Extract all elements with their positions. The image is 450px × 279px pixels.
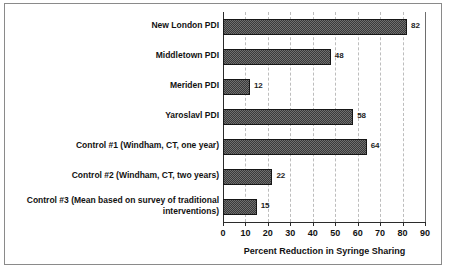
chart-figure: 82New London PDI48Middletown PDI12Meride… — [0, 0, 450, 279]
category-label: Yaroslavl PDI — [165, 110, 219, 121]
category-label: Control #2 (Windham, CT, two years) — [72, 170, 219, 181]
bar[interactable] — [223, 19, 407, 35]
bar[interactable] — [223, 199, 257, 215]
category-label: Control #3 (Mean based on survey of trad… — [27, 195, 219, 217]
bar-row: 22Control #2 (Windham, CT, two years) — [0, 162, 450, 192]
bar[interactable] — [223, 139, 367, 155]
bar-value-label: 15 — [261, 201, 270, 210]
bar-value-label: 82 — [411, 21, 420, 30]
x-tick-80 — [403, 222, 404, 226]
x-tick-0 — [223, 222, 224, 226]
x-tick-label-90: 90 — [410, 228, 440, 238]
x-tick-60 — [358, 222, 359, 226]
category-label: Middletown PDI — [156, 50, 219, 61]
x-tick-90 — [425, 222, 426, 226]
bar-row: 15Control #3 (Mean based on survey of tr… — [0, 192, 450, 222]
x-tick-50 — [335, 222, 336, 226]
bar[interactable] — [223, 109, 353, 125]
x-tick-20 — [268, 222, 269, 226]
bar-row: 64Control #1 (Windham, CT, one year) — [0, 132, 450, 162]
bar-value-label: 58 — [357, 111, 366, 120]
bar-value-label: 48 — [335, 51, 344, 60]
bar-value-label: 22 — [276, 171, 285, 180]
category-label: New London PDI — [151, 20, 219, 31]
bar-row: 82New London PDI — [0, 12, 450, 42]
bar-row: 48Middletown PDI — [0, 42, 450, 72]
bar-value-label: 64 — [371, 141, 380, 150]
bar-row: 58Yaroslavl PDI — [0, 102, 450, 132]
category-label: Control #1 (Windham, CT, one year) — [76, 140, 219, 151]
x-tick-10 — [245, 222, 246, 226]
x-tick-30 — [290, 222, 291, 226]
bar[interactable] — [223, 49, 331, 65]
bar[interactable] — [223, 169, 272, 185]
x-axis-line — [223, 222, 426, 223]
bar[interactable] — [223, 79, 250, 95]
x-axis-title: Percent Reduction in Syringe Sharing — [223, 246, 426, 256]
bar-value-label: 12 — [254, 81, 263, 90]
x-tick-40 — [313, 222, 314, 226]
category-label: Meriden PDI — [170, 80, 219, 91]
x-tick-70 — [380, 222, 381, 226]
bar-row: 12Meriden PDI — [0, 72, 450, 102]
